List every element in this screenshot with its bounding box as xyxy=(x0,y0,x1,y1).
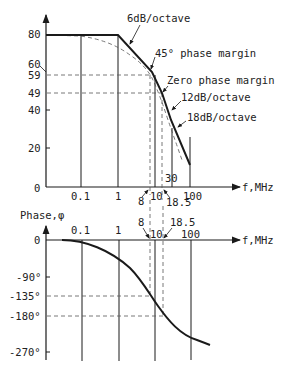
x-label-1: 1 xyxy=(115,190,121,202)
arrow-8 xyxy=(142,190,148,197)
annotation-12db-octave: 12dB/octave xyxy=(181,91,251,103)
phase-curve xyxy=(62,240,210,345)
arrow-zero xyxy=(163,86,168,92)
phase-y-axis-label: Phase,φ xyxy=(20,209,64,221)
phase-arrow-8 xyxy=(143,228,149,238)
arrow-45 xyxy=(151,57,155,69)
annotation-45-phase-margin: 45° phase margin xyxy=(155,47,256,59)
x-label-8: 8 xyxy=(138,195,144,207)
phase-label-180: -180° xyxy=(9,310,41,322)
phase-label-135: -135° xyxy=(9,290,41,302)
y-label-49: 49 xyxy=(28,87,41,99)
x-label-30: 30 xyxy=(165,172,178,184)
phase-plot: Phase,φ 0 -90° -135° -180° -270° 0.1 xyxy=(9,200,274,361)
annotation-6db-octave: 6dB/octave xyxy=(127,12,190,24)
phase-x-label-8: 8 xyxy=(138,216,144,228)
arrow-6db xyxy=(130,25,140,44)
phase-arrow-18.5 xyxy=(164,228,172,238)
phase-label-270: -270° xyxy=(9,346,41,358)
phase-dashed-guides xyxy=(47,200,163,316)
bode-diagram: 80 60 59 49 40 20 0 0.1 1 10 100 f,MHz 3… xyxy=(0,0,289,378)
annotation-18db-octave: 18dB/octave xyxy=(187,111,257,123)
y-label-40: 40 xyxy=(28,104,41,116)
phase-x-label-10: 10 xyxy=(150,228,163,240)
y-label-60-leader xyxy=(40,66,46,72)
arrow-12db xyxy=(172,101,181,110)
y-label-20: 20 xyxy=(28,142,41,154)
magnitude-plot: 80 60 59 49 40 20 0 0.1 1 10 100 f,MHz 3… xyxy=(28,12,274,208)
phase-x-label-0.1: 0.1 xyxy=(71,224,90,236)
y-label-0: 0 xyxy=(34,182,40,194)
phase-x-label-1: 1 xyxy=(115,224,121,236)
magnitude-x-axis-label: f,MHz xyxy=(242,181,274,193)
y-label-59: 59 xyxy=(28,69,41,81)
phase-label-90: -90° xyxy=(16,271,41,283)
annotation-zero-phase-margin: Zero phase margin xyxy=(167,74,274,86)
magnitude-dashed-guides xyxy=(46,35,182,200)
x-label-10: 10 xyxy=(150,190,163,202)
phase-label-0: 0 xyxy=(34,234,40,246)
y-label-80: 80 xyxy=(28,28,41,40)
x-label-0.1: 0.1 xyxy=(71,190,90,202)
phase-x-label-18.5: 18.5 xyxy=(170,216,195,228)
phase-x-label-100: 100 xyxy=(181,228,200,240)
arrow-18db xyxy=(178,121,186,127)
phase-x-axis-label: f,MHz xyxy=(242,234,274,246)
